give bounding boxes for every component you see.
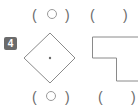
close-paren: ) (65, 89, 70, 105)
open-paren: ( (32, 89, 37, 105)
l-shape-figure (93, 37, 139, 81)
center-dot-icon (49, 57, 51, 59)
circle-mark-icon (46, 91, 56, 101)
bottom-answer-row: ( ) ( ) (0, 89, 138, 105)
close-paren: ) (131, 89, 136, 105)
diamond-figure (24, 33, 75, 83)
open-paren: ( (98, 89, 103, 105)
